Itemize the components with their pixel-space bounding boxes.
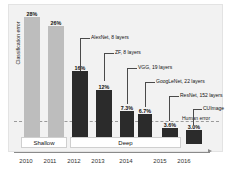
bar-label-2010: 28% bbox=[24, 11, 40, 17]
x-tick-2015: 2015 bbox=[148, 158, 172, 164]
x-tick-2016: 2016 bbox=[172, 158, 196, 164]
annotation-resnet: ResNet, 152 layers bbox=[180, 92, 223, 98]
leader-line-cuimage bbox=[193, 109, 194, 125]
x-tick-2011: 2011 bbox=[38, 158, 62, 164]
annotation-vgg: VGG, 19 layers bbox=[138, 64, 172, 70]
leader-line-zf-h bbox=[104, 53, 114, 54]
annotation-googlenet: GoogLeNet, 22 layers bbox=[156, 78, 205, 84]
bar-2016 bbox=[186, 130, 202, 144]
bar-label-2011: 26% bbox=[48, 20, 64, 26]
leader-line-vgg-h bbox=[127, 68, 137, 69]
x-tick-2010: 2010 bbox=[14, 158, 38, 164]
bar-label-2014-vgg: 7.3% bbox=[117, 105, 137, 111]
leader-line-zf bbox=[104, 53, 105, 81]
era-band-deep: Deep bbox=[70, 137, 181, 148]
leader-line-resnet-h bbox=[169, 96, 179, 97]
x-axis-arrow-icon bbox=[208, 149, 212, 153]
bar-2012 bbox=[72, 71, 88, 144]
bar-2010 bbox=[24, 17, 40, 144]
leader-line-alexnet bbox=[80, 38, 81, 71]
annotation-cuimage: CUImage bbox=[203, 105, 224, 111]
x-axis-line bbox=[14, 152, 210, 153]
leader-line-cuimage-h bbox=[193, 109, 202, 110]
bar-label-2013: 12% bbox=[96, 84, 112, 90]
imagenet-error-chart: Classification error Human error 28% 26%… bbox=[0, 0, 231, 183]
bar-label-2015: 3.6% bbox=[160, 122, 180, 128]
bar-label-2016: 3.0% bbox=[184, 124, 204, 130]
era-band-shallow: Shallow bbox=[21, 137, 67, 148]
annotation-zf: ZF, 8 layers bbox=[115, 49, 141, 55]
bar-2013 bbox=[96, 90, 112, 144]
leader-line-vgg bbox=[127, 68, 128, 104]
y-axis-label: Classification error bbox=[15, 11, 21, 75]
leader-line-alexnet-h bbox=[80, 38, 90, 39]
bar-label-2014-googlenet: 6.7% bbox=[135, 108, 155, 114]
human-error-label: Human error bbox=[182, 115, 210, 121]
annotation-alexnet: AlexNet, 8 layers bbox=[91, 34, 129, 40]
bar-2011 bbox=[48, 26, 64, 144]
x-tick-2014: 2014 bbox=[114, 158, 138, 164]
leader-line-resnet bbox=[169, 96, 170, 121]
human-error-reference-line bbox=[14, 121, 219, 122]
x-tick-2013: 2013 bbox=[86, 158, 110, 164]
x-tick-2012: 2012 bbox=[62, 158, 86, 164]
leader-line-googlenet bbox=[145, 82, 146, 107]
leader-line-googlenet-h bbox=[145, 82, 155, 83]
plot-area: Human error 28% 26% 16% 12% 7.3% 6.7% 3.… bbox=[22, 8, 200, 144]
